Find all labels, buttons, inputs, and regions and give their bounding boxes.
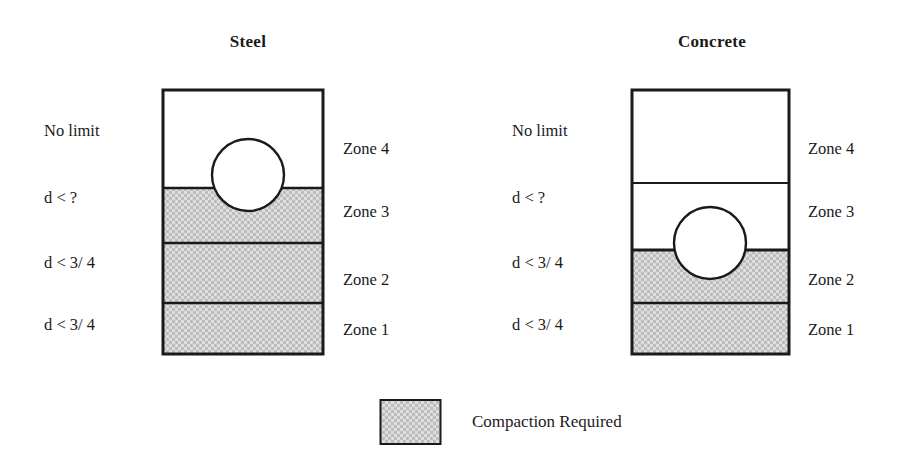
concrete-left-label-zone2: d < 3/ 4 (512, 255, 563, 272)
steel-left-label-zone3: d < ? (44, 190, 77, 207)
zone-4-concrete (632, 90, 789, 183)
column-diagram-steel (160, 86, 326, 358)
steel-right-label-zone2: Zone 2 (343, 272, 389, 289)
steel-left-label-zone2: d < 3/ 4 (44, 255, 95, 272)
steel-right-label-zone1: Zone 1 (343, 322, 389, 339)
zone-1-steel (163, 303, 323, 354)
concrete-right-label-zone2: Zone 2 (808, 272, 854, 289)
concrete-right-label-zone1: Zone 1 (808, 322, 854, 339)
pile-circle-steel (212, 139, 284, 211)
concrete-right-label-zone3: Zone 3 (808, 204, 854, 221)
steel-right-label-zone3: Zone 3 (343, 204, 389, 221)
zone-1-concrete (632, 303, 789, 354)
legend-label: Compaction Required (472, 413, 622, 430)
steel-left-label-zone4: No limit (44, 123, 99, 140)
concrete-left-label-zone1: d < 3/ 4 (512, 317, 563, 334)
panel-title-concrete: Concrete (678, 32, 746, 52)
concrete-left-label-zone3: d < ? (512, 190, 545, 207)
diagram-canvas: Steel (0, 0, 918, 474)
concrete-right-label-zone4: Zone 4 (808, 141, 854, 158)
column-diagram-concrete (629, 86, 792, 358)
zone-2-steel (163, 243, 323, 303)
pile-circle-concrete (674, 207, 746, 279)
concrete-left-label-zone4: No limit (512, 123, 567, 140)
panel-title-steel: Steel (230, 32, 266, 52)
steel-right-label-zone4: Zone 4 (343, 141, 389, 158)
legend-compaction-swatch (379, 398, 443, 446)
steel-left-label-zone1: d < 3/ 4 (44, 317, 95, 334)
